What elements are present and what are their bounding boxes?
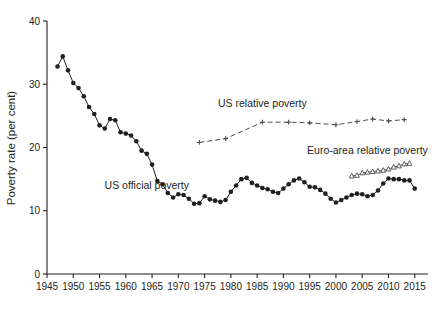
data-point: [108, 117, 113, 122]
x-tick-label: 2000: [325, 281, 348, 292]
data-point: [412, 186, 417, 191]
x-tick-label: 1980: [220, 281, 243, 292]
data-point: [92, 112, 97, 117]
data-point: [318, 188, 323, 193]
data-point: [370, 193, 375, 198]
data-point: [139, 148, 144, 153]
data-point: [134, 139, 139, 144]
data-point: [297, 176, 302, 181]
chart-canvas: 010203040 Poverty rate (per cent) 194519…: [0, 0, 441, 311]
y-tick-label: 10: [29, 205, 41, 216]
data-point: [102, 126, 107, 131]
data-point: [307, 120, 312, 125]
data-point: [276, 191, 281, 196]
data-point: [402, 117, 407, 122]
y-tick-label: 0: [34, 269, 40, 280]
data-point: [360, 170, 365, 175]
data-point: [370, 169, 375, 174]
annotation-layer: US relative povertyEuro-area relative po…: [105, 97, 429, 191]
data-point: [60, 54, 65, 59]
x-tick-label: 1995: [299, 281, 322, 292]
data-point: [234, 183, 239, 188]
data-point: [87, 105, 92, 110]
data-point: [365, 194, 370, 199]
data-point: [260, 186, 265, 191]
data-point: [81, 94, 86, 99]
data-point: [397, 163, 402, 168]
data-point: [292, 178, 297, 183]
data-point: [223, 136, 228, 141]
data-point: [118, 130, 123, 135]
x-tick-label: 1970: [167, 281, 190, 292]
data-point: [391, 165, 396, 170]
data-point: [302, 180, 307, 185]
data-point: [323, 191, 328, 196]
x-tick-label: 1945: [36, 281, 59, 292]
data-point: [281, 186, 286, 191]
data-point: [202, 194, 207, 199]
data-point: [124, 131, 129, 136]
data-point: [229, 189, 234, 194]
x-tick-group: 1945195019551960196519701975198019851990…: [36, 274, 426, 292]
x-tick-label: 2010: [377, 281, 400, 292]
data-point: [381, 181, 386, 186]
data-point: [391, 177, 396, 182]
data-point: [113, 118, 118, 123]
x-tick-label: 2015: [404, 281, 427, 292]
data-point: [250, 181, 255, 186]
data-point: [213, 198, 218, 203]
data-point: [271, 189, 276, 194]
x-axis: 1945195019551960196519701975198019851990…: [36, 274, 428, 292]
series-1: [197, 117, 407, 145]
data-point: [355, 119, 360, 124]
data-point: [55, 64, 60, 69]
data-point: [349, 173, 354, 178]
data-point: [334, 200, 339, 205]
series-line: [199, 119, 404, 142]
data-point: [334, 122, 339, 127]
poverty-rate-chart: 010203040 Poverty rate (per cent) 194519…: [0, 0, 441, 311]
data-point: [286, 182, 291, 187]
data-point: [66, 68, 71, 73]
data-point: [197, 140, 202, 145]
data-point: [360, 192, 365, 197]
data-point: [286, 120, 291, 125]
data-point: [339, 198, 344, 203]
y-axis-label: Poverty rate (per cent): [5, 91, 17, 206]
data-point: [181, 193, 186, 198]
data-point: [355, 173, 360, 178]
data-point: [192, 201, 197, 206]
x-tick-label: 1975: [193, 281, 216, 292]
data-point: [260, 120, 265, 125]
data-point: [166, 191, 171, 196]
data-point: [402, 178, 407, 183]
data-point: [386, 176, 391, 181]
data-point: [407, 161, 412, 166]
y-tick-group: 010203040: [29, 16, 47, 280]
data-point: [208, 197, 213, 202]
data-point: [386, 166, 391, 171]
data-point: [376, 188, 381, 193]
data-point: [402, 161, 407, 166]
series-annotation-2: US official poverty: [105, 179, 190, 191]
data-point: [365, 170, 370, 175]
data-point: [386, 119, 391, 124]
data-point: [176, 192, 181, 197]
data-point: [197, 201, 202, 206]
data-point: [239, 177, 244, 182]
data-point: [407, 178, 412, 183]
y-tick-label: 40: [29, 16, 41, 27]
x-tick-label: 1990: [272, 281, 295, 292]
data-point: [187, 196, 192, 201]
data-point: [255, 183, 260, 188]
series-annotation-1: Euro-area relative poverty: [307, 144, 429, 156]
y-tick-label: 20: [29, 142, 41, 153]
x-tick-label: 1955: [88, 281, 111, 292]
data-point: [344, 195, 349, 200]
series-annotation-0: US relative poverty: [218, 97, 307, 109]
data-point: [349, 193, 354, 198]
x-tick-label: 2005: [351, 281, 374, 292]
x-tick-label: 1965: [141, 281, 164, 292]
data-point: [223, 198, 228, 203]
data-point: [376, 168, 381, 173]
